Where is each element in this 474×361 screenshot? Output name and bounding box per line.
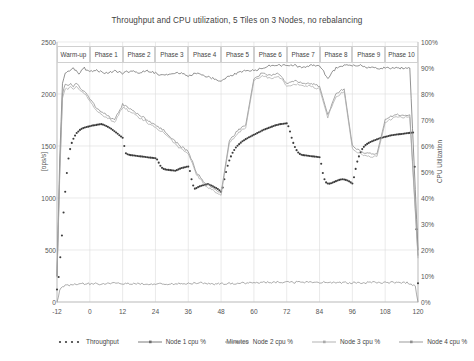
legend-swatch-icon — [311, 338, 337, 345]
y-tick-left: 0 — [16, 299, 56, 306]
legend-item-4[interactable]: Node 4 cpu % — [398, 338, 467, 345]
legend-label: Throughput — [86, 338, 119, 345]
phase-label-8: Phase 8 — [320, 46, 353, 63]
y-tick-right: 70% — [421, 117, 461, 124]
y-tick-left: 1000 — [16, 195, 56, 202]
legend-item-0[interactable]: Throughput — [57, 338, 119, 345]
legend-label: Node 1 cpu % — [166, 338, 206, 345]
y-tick-right: 10% — [421, 273, 461, 280]
legend-label: Node 4 cpu % — [427, 338, 467, 345]
phase-label-warmup: Warm-up — [57, 46, 90, 63]
phase-label-2: Phase 2 — [123, 46, 156, 63]
phase-label-10: Phase 10 — [385, 46, 418, 63]
legend-swatch-icon — [398, 338, 424, 345]
y-tick-right: 100% — [421, 39, 461, 46]
y-tick-right: 20% — [421, 247, 461, 254]
phase-label-4: Phase 4 — [188, 46, 221, 63]
legend-swatch-icon — [137, 338, 163, 345]
chart-title: Throughput and CPU utilization, 5 Tiles … — [0, 16, 474, 25]
legend-label: Node 3 cpu % — [340, 338, 380, 345]
chart-legend: ThroughputNode 1 cpu %Node 2 cpu %Node 3… — [57, 333, 457, 349]
legend-label: Node 2 cpu % — [253, 338, 293, 345]
phase-label-9: Phase 9 — [352, 46, 385, 63]
y-axis-left-title: [ops/s] — [40, 132, 47, 192]
y-tick-right: 90% — [421, 65, 461, 72]
legend-swatch-icon — [224, 338, 250, 345]
legend-item-1[interactable]: Node 1 cpu % — [137, 338, 206, 345]
phase-label-7: Phase 7 — [287, 46, 320, 63]
phase-label-5: Phase 5 — [221, 46, 254, 63]
phase-label-1: Phase 1 — [90, 46, 123, 63]
plot-svg — [57, 42, 418, 302]
x-tick: 120 — [398, 308, 438, 315]
y-tick-right: 30% — [421, 221, 461, 228]
phase-label-3: Phase 3 — [155, 46, 188, 63]
y-tick-left: 500 — [16, 247, 56, 254]
y-axis-right-title: CPU Utilization — [436, 127, 443, 197]
legend-item-3[interactable]: Node 3 cpu % — [311, 338, 380, 345]
phase-label-6: Phase 6 — [254, 46, 287, 63]
y-tick-right: 0% — [421, 299, 461, 306]
y-tick-left: 2000 — [16, 91, 56, 98]
y-tick-left: 1500 — [16, 143, 56, 150]
y-tick-right: 80% — [421, 91, 461, 98]
legend-swatch-icon — [57, 338, 83, 345]
y-tick-left: 2500 — [16, 39, 56, 46]
legend-item-2[interactable]: Node 2 cpu % — [224, 338, 293, 345]
plot-area: Warm-upPhase 1Phase 2Phase 3Phase 4Phase… — [57, 42, 418, 302]
chart-figure: Throughput and CPU utilization, 5 Tiles … — [0, 0, 474, 361]
